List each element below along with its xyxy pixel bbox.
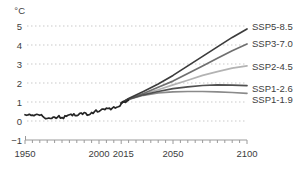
series-line-historical [25,100,129,119]
x-tick-label-1950: 1950 [14,148,35,159]
series-label-ssp5-8.5: SSP5-8.5 [252,21,293,32]
series-label-ssp1-1.9: SSP1-1.9 [252,94,293,105]
climate-projection-chart: 19502000201520502100 543210−1 SSP2-4.5SS… [0,0,304,169]
y-tick-label-1: 1 [17,97,22,108]
y-tick-label-4: 4 [17,40,22,51]
y-axis-labels-layer: 543210−1 [11,21,22,146]
x-tick-label-2050: 2050 [162,148,183,159]
y-tick-label-0: 0 [17,116,22,127]
series-label-ssp1-2.6: SSP1-2.6 [252,83,293,94]
y-axis-unit-label: °C [14,5,25,16]
y-tick-label-2: 2 [17,78,22,89]
y-tick-label-5: 5 [17,21,22,32]
gridlines-layer [27,26,247,121]
x-axis-layer: 19502000201520502100 [14,136,257,159]
series-line-ssp3-7.0 [121,44,247,103]
x-tick-label-2015: 2015 [113,148,134,159]
x-tick-label-2100: 2100 [236,148,257,159]
x-tick-label-2000: 2000 [88,148,109,159]
series-label-ssp2-4.5: SSP2-4.5 [252,61,293,72]
chart-canvas: 19502000201520502100 543210−1 SSP2-4.5SS… [0,0,304,169]
series-lines-layer [25,29,247,119]
series-labels-layer: SSP2-4.5SSP1-1.9SSP3-7.0SSP1-2.6SSP5-8.5 [252,21,293,105]
series-label-ssp3-7.0: SSP3-7.0 [252,38,293,49]
y-tick-label--1: −1 [11,135,22,146]
y-tick-label-3: 3 [17,59,22,70]
